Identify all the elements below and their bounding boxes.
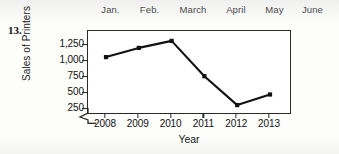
x-tick-label: 2009 — [127, 118, 149, 129]
scanned-page: Jan. Feb. March April May June 13. Sales… — [0, 0, 339, 154]
x-tick-label: 2008 — [94, 118, 116, 129]
y-tick-label: 1,000 — [46, 52, 84, 68]
x-tick-label: 2013 — [258, 118, 280, 129]
data-point-marker — [137, 46, 141, 50]
x-tick-label: 2010 — [160, 118, 182, 129]
x-tick-label: 2011 — [193, 118, 214, 129]
y-tick-label: 750 — [46, 68, 84, 84]
month-label-strip: Jan. Feb. March April May June — [92, 1, 332, 17]
chart-plot-area — [87, 30, 291, 114]
month-label-jan: Jan. — [92, 4, 129, 15]
data-markers — [104, 39, 272, 107]
x-tick-label: 2012 — [225, 118, 247, 129]
data-point-marker — [104, 55, 108, 59]
x-axis-title: Year — [87, 133, 291, 145]
y-axis-title: Sales of Printers — [21, 0, 32, 88]
month-label-june: June — [293, 4, 332, 15]
data-point-marker — [235, 103, 239, 107]
y-tick-label: 500 — [46, 84, 84, 100]
data-point-marker — [170, 39, 174, 43]
y-tick-label: 1,250 — [46, 36, 84, 52]
x-axis-tick-labels: 200820092010201120122013 — [87, 118, 291, 132]
data-point-marker — [202, 74, 206, 78]
data-point-marker — [268, 92, 272, 96]
month-label-feb: Feb. — [129, 4, 170, 15]
data-line — [106, 41, 270, 105]
month-label-april: April — [216, 4, 256, 15]
month-label-march: March — [170, 4, 216, 15]
y-axis-tick-labels: 1,250 1,000 750 500 250 — [46, 36, 84, 116]
line-series-svg — [88, 31, 292, 115]
month-label-may: May — [256, 4, 293, 15]
